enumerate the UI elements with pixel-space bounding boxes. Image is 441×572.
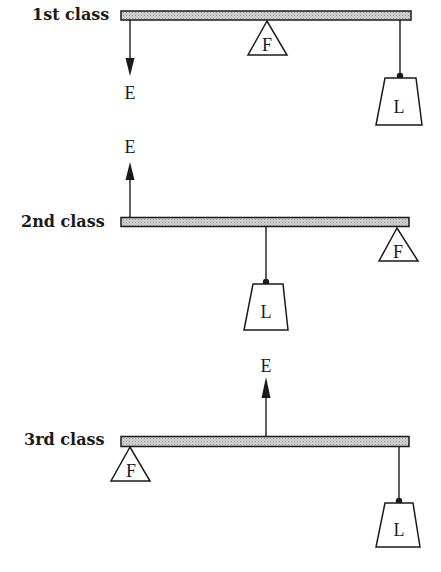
fulcrum-label: F bbox=[393, 242, 403, 262]
lever-3rd-class: 3rd class E F L bbox=[24, 356, 420, 547]
class-label: 3rd class bbox=[24, 430, 105, 449]
effort-arrow-up-icon bbox=[126, 162, 135, 217]
load-label: L bbox=[394, 97, 405, 117]
lever-1st-class: 1st class E F L bbox=[32, 5, 422, 125]
lever-beam bbox=[121, 218, 409, 227]
class-label: 2nd class bbox=[21, 212, 105, 231]
effort-label: E bbox=[261, 356, 272, 376]
effort-label: E bbox=[125, 137, 136, 157]
effort-arrow-up-icon bbox=[262, 377, 271, 436]
effort-label: E bbox=[125, 83, 136, 103]
lever-2nd-class: 2nd class E L F bbox=[21, 137, 418, 330]
effort-arrow-down-icon bbox=[126, 20, 135, 76]
fulcrum-label: F bbox=[262, 35, 272, 55]
lever-classes-diagram: 1st class E F L 2nd class E bbox=[0, 0, 441, 572]
class-label: 1st class bbox=[32, 5, 109, 24]
lever-beam bbox=[121, 437, 409, 447]
fulcrum-label: F bbox=[126, 461, 136, 481]
load-label: L bbox=[394, 520, 405, 540]
lever-beam bbox=[121, 11, 411, 20]
load-label: L bbox=[261, 302, 272, 322]
